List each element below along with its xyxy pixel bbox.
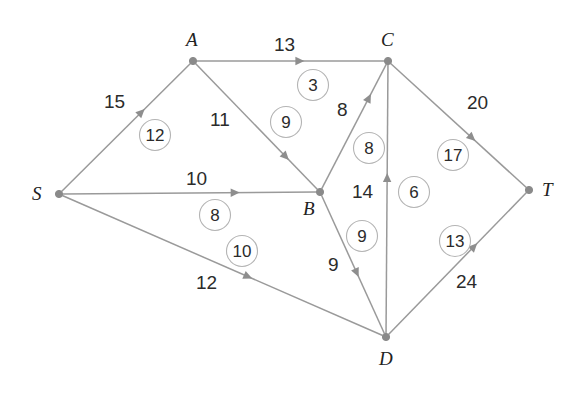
capacity-label-A-B: 11 — [210, 110, 230, 129]
node-dot-A[interactable] — [189, 57, 196, 64]
node-label-T: T — [542, 180, 553, 199]
edge-D-C — [386, 65, 388, 334]
edge-S-B — [63, 192, 317, 194]
nodes-layer — [55, 57, 532, 340]
flow-label-D-C: 6 — [394, 184, 434, 201]
flow-label-C-T: 17 — [433, 147, 473, 164]
capacity-label-C-T: 20 — [467, 93, 488, 112]
flow-label-A-B: 9 — [266, 114, 306, 131]
node-label-B: B — [303, 199, 315, 218]
flow-label-B-C: 8 — [349, 140, 389, 157]
graph-canvas — [0, 0, 582, 402]
capacity-label-A-C: 13 — [274, 35, 295, 54]
node-dot-D[interactable] — [382, 333, 389, 340]
flow-label-B-D: 9 — [342, 228, 382, 245]
arrow-head-S-B — [231, 188, 240, 196]
capacity-label-S-A: 15 — [104, 92, 125, 111]
node-label-S: S — [32, 184, 42, 203]
flow-label-S-A: 12 — [135, 127, 175, 144]
flow-label-S-B: 8 — [195, 207, 235, 224]
node-dot-C[interactable] — [384, 57, 391, 64]
node-label-D: D — [379, 349, 393, 368]
capacity-label-S-B: 10 — [186, 169, 207, 188]
node-dot-S[interactable] — [55, 190, 62, 197]
node-label-A: A — [186, 30, 198, 49]
node-label-C: C — [381, 30, 394, 49]
capacity-label-B-C: 8 — [337, 100, 348, 119]
arrow-head-D-C — [383, 173, 391, 182]
capacity-label-B-D: 9 — [328, 255, 339, 274]
flow-label-D-T: 13 — [435, 233, 475, 250]
node-dot-B[interactable] — [316, 188, 323, 195]
arrow-head-A-C — [295, 57, 304, 65]
flow-network-diagram: 15121081210133119889914620172413SACBDT — [0, 0, 582, 402]
capacity-label-D-T: 24 — [456, 272, 477, 291]
capacity-label-S-D: 12 — [196, 273, 217, 292]
edges-layer — [62, 57, 527, 336]
node-dot-T[interactable] — [525, 186, 532, 193]
flow-label-A-C: 3 — [293, 77, 333, 94]
flow-label-S-D: 10 — [222, 243, 262, 260]
capacity-label-D-C: 14 — [352, 182, 373, 201]
edge-D-T — [389, 193, 527, 335]
